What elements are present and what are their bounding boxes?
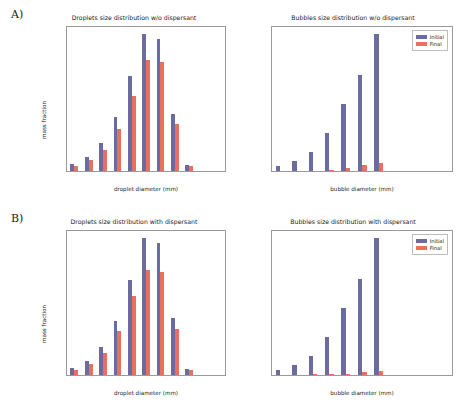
bar-final — [329, 170, 333, 171]
legend-label: Final — [430, 245, 442, 251]
bar-final — [89, 364, 93, 375]
chart-title: Bubbles size distribution w/o dispersant — [245, 14, 461, 21]
bar-initial — [325, 337, 329, 375]
bar-initial — [341, 308, 345, 375]
x-axis-tick-mark — [313, 171, 314, 172]
bar-group — [211, 231, 225, 375]
bar-group — [354, 231, 370, 375]
bar-group — [272, 27, 288, 171]
bar-group — [139, 27, 153, 171]
bar-group — [124, 27, 138, 171]
panel-letter-a: A) — [11, 8, 23, 21]
chart-droplets-without-dispersant: Droplets size distribution w/o dispersan… — [34, 14, 234, 200]
x-axis-tick-mark — [394, 375, 395, 376]
legend-item-final[interactable]: Final — [416, 245, 444, 251]
x-axis-tick-mark — [103, 171, 104, 172]
bar-group — [153, 231, 167, 375]
x-axis-tick-mark — [131, 375, 132, 376]
x-axis-tick-mark — [394, 171, 395, 172]
bar-group — [96, 27, 110, 171]
x-axis-label: bubble diameter (mm) — [271, 390, 453, 396]
bar-initial — [292, 161, 296, 171]
x-axis-tick-mark — [329, 171, 330, 172]
x-axis-tick-mark — [411, 171, 412, 172]
bar-group — [211, 27, 225, 171]
bar-group — [354, 27, 370, 171]
bar-final — [379, 371, 383, 375]
x-axis-tick-mark — [131, 171, 132, 172]
bar-initial — [309, 356, 313, 375]
bar-initial — [309, 152, 313, 171]
x-axis-tick-mark — [117, 375, 118, 376]
x-axis-tick-mark — [443, 171, 444, 172]
chart-legend[interactable]: InitialFinal — [412, 234, 448, 255]
legend-label: Initial — [430, 34, 444, 40]
bar-final — [146, 270, 150, 375]
x-axis-tick-mark — [160, 171, 161, 172]
bar-group — [288, 27, 304, 171]
bar-final — [160, 272, 164, 375]
x-axis-label: droplet diameter (mm) — [66, 186, 226, 192]
bar-final — [175, 124, 179, 171]
x-axis-tick-mark — [378, 375, 379, 376]
bar-final — [313, 374, 317, 375]
bar-group — [182, 231, 196, 375]
bar-final — [117, 331, 121, 375]
x-axis-tick-mark — [362, 171, 363, 172]
bar-final — [329, 374, 333, 375]
panel-letter-b: B) — [11, 212, 23, 225]
bar-group — [337, 231, 353, 375]
x-axis-tick-mark — [345, 171, 346, 172]
bar-group — [370, 27, 386, 171]
x-axis-tick-mark — [74, 171, 75, 172]
bar-final — [89, 160, 93, 171]
bar-final — [132, 296, 136, 375]
bar-group — [153, 27, 167, 171]
x-axis-tick-mark — [88, 375, 89, 376]
legend-item-initial[interactable]: Initial — [416, 238, 444, 244]
bar-final — [146, 60, 150, 171]
x-axis-tick-mark — [378, 171, 379, 172]
x-axis-tick-mark — [174, 171, 175, 172]
x-axis-label: droplet diameter (mm) — [66, 390, 226, 396]
x-axis-tick-mark — [203, 171, 204, 172]
x-axis-tick-mark — [217, 375, 218, 376]
x-axis-tick-mark — [189, 171, 190, 172]
x-axis-tick-mark — [427, 375, 428, 376]
bar-initial — [374, 34, 378, 171]
x-axis-label: bubble diameter (mm) — [271, 186, 453, 192]
bar-group — [110, 231, 124, 375]
bar-group — [168, 27, 182, 171]
bar-initial — [276, 166, 280, 171]
x-axis-tick-mark — [88, 171, 89, 172]
chart-legend[interactable]: InitialFinal — [412, 30, 448, 51]
legend-item-final[interactable]: Final — [416, 41, 444, 47]
bar-group — [139, 231, 153, 375]
legend-label: Final — [430, 41, 442, 47]
legend-swatch-icon — [416, 42, 427, 47]
plot-area: 0.000.020.040.060.080.100.120.140.160.18… — [66, 230, 226, 376]
x-axis-tick-mark — [74, 375, 75, 376]
chart-droplets-with-dispersant: Droplets size distribution with dispersa… — [34, 218, 234, 404]
x-axis-tick-mark — [280, 171, 281, 172]
x-axis-tick-mark — [296, 171, 297, 172]
bar-final — [74, 370, 78, 375]
x-axis-tick-mark — [203, 375, 204, 376]
bar-final — [160, 62, 164, 171]
bar-group — [387, 27, 403, 171]
bar-group — [370, 231, 386, 375]
bar-initial — [276, 370, 280, 375]
bar-final — [189, 166, 193, 171]
bar-group — [288, 231, 304, 375]
bar-group — [124, 231, 138, 375]
bar-group — [321, 231, 337, 375]
x-axis-tick-mark — [313, 375, 314, 376]
chart-title: Bubbles size distribution with dispersan… — [245, 218, 461, 225]
bar-final — [132, 96, 136, 171]
bar-group — [168, 231, 182, 375]
bar-final — [74, 166, 78, 171]
chart-bubbles-with-dispersant: Bubbles size distribution with dispersan… — [245, 218, 461, 404]
legend-item-initial[interactable]: Initial — [416, 34, 444, 40]
x-axis-tick-mark — [103, 375, 104, 376]
chart-title: Droplets size distribution w/o dispersan… — [34, 14, 234, 21]
